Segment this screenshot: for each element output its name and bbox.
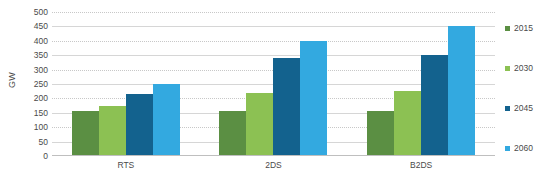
legend-label-2015: 2015 <box>514 24 533 33</box>
y-axis-tick-150: 150 <box>18 109 48 118</box>
legend-label-2045: 2045 <box>514 104 533 113</box>
legend-label-2030: 2030 <box>514 64 533 73</box>
y-axis-tick-450: 450 <box>18 22 48 31</box>
y-axis-tick-500: 500 <box>18 8 48 17</box>
legend-item-2030[interactable]: 2030 <box>505 64 533 73</box>
bar-b2ds-2030[interactable] <box>394 91 421 156</box>
bar-rts-2030[interactable] <box>99 106 126 156</box>
bar-rts-2045[interactable] <box>126 94 153 156</box>
x-axis-tick-labels: RTS2DSB2DS <box>52 160 495 170</box>
y-axis-tick-250: 250 <box>18 80 48 89</box>
y-axis-tick-300: 300 <box>18 65 48 74</box>
bar-2ds-2030[interactable] <box>246 93 273 156</box>
legend-item-2015[interactable]: 2015 <box>505 24 533 33</box>
legend-item-2060[interactable]: 2060 <box>505 144 533 153</box>
legend-swatch-2015 <box>505 26 510 31</box>
legend-item-2045[interactable]: 2045 <box>505 104 533 113</box>
bar-2ds-2060[interactable] <box>300 41 327 156</box>
legend-swatch-2030 <box>505 66 510 71</box>
bar-group-b2ds <box>367 12 475 156</box>
legend-swatch-2045 <box>505 106 510 111</box>
bar-2ds-2015[interactable] <box>219 111 246 157</box>
bar-b2ds-2045[interactable] <box>421 55 448 156</box>
y-axis-tick-200: 200 <box>18 94 48 103</box>
bar-rts-2060[interactable] <box>153 84 180 156</box>
y-axis-tick-0: 0 <box>18 152 48 161</box>
bar-group-rts <box>72 12 180 156</box>
bar-b2ds-2060[interactable] <box>448 26 475 156</box>
bar-group-2ds <box>219 12 327 156</box>
x-axis-label-b2ds: B2DS <box>347 160 495 170</box>
y-axis-tick-50: 50 <box>18 137 48 146</box>
x-axis-label-2ds: 2DS <box>200 160 348 170</box>
bar-b2ds-2015[interactable] <box>367 111 394 156</box>
x-axis-label-rts: RTS <box>52 160 200 170</box>
bar-2ds-2045[interactable] <box>273 58 300 156</box>
y-axis-title-text: GW <box>7 72 17 88</box>
legend-swatch-2060 <box>505 146 510 151</box>
y-axis-tick-400: 400 <box>18 37 48 46</box>
bar-groups <box>52 12 495 156</box>
chart-legend: 2015203020452060 <box>505 12 547 156</box>
x-axis-line <box>52 155 495 156</box>
y-axis-tick-labels: 050100150200250300350400450500 <box>18 12 48 156</box>
bar-chart: GW 050100150200250300350400450500 RTS2DS… <box>0 0 547 190</box>
plot-area <box>52 12 495 156</box>
y-axis-tick-350: 350 <box>18 51 48 60</box>
bar-rts-2015[interactable] <box>72 111 99 157</box>
legend-label-2060: 2060 <box>514 144 533 153</box>
y-axis-tick-100: 100 <box>18 123 48 132</box>
